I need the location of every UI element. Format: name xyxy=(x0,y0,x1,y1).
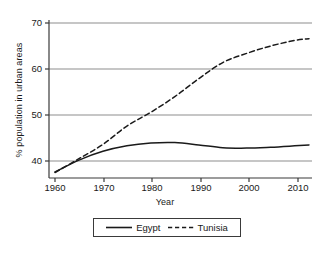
line-chart-figure: % population in urban areas 70 60 50 40 … xyxy=(0,0,330,254)
legend-swatch-dashed-icon xyxy=(168,224,194,231)
chart-legend: Egypt Tunisia xyxy=(93,218,241,237)
axis-lines xyxy=(49,20,312,178)
legend-label-tunisia: Tunisia xyxy=(198,223,228,233)
legend-swatch-solid-icon xyxy=(106,224,132,231)
series-line-egypt xyxy=(55,142,309,172)
x-axis-title: Year xyxy=(0,197,330,207)
legend-entry-egypt: Egypt xyxy=(106,223,160,233)
legend-entry-tunisia: Tunisia xyxy=(168,223,228,233)
series-line-tunisia xyxy=(55,39,309,173)
plot-canvas xyxy=(0,0,330,254)
x-axis-ticks xyxy=(55,178,298,182)
legend-label-egypt: Egypt xyxy=(136,223,160,233)
